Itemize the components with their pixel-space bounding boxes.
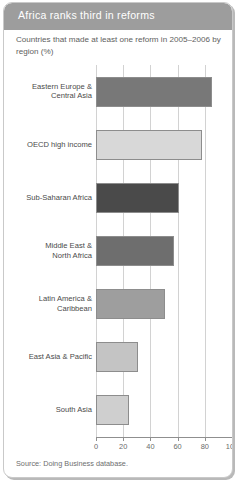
bar — [96, 130, 202, 160]
category-label: Sub-Saharan Africa — [3, 193, 92, 203]
category-label: Latin America &Caribbean — [3, 294, 92, 313]
bar — [96, 342, 138, 372]
bar — [96, 183, 179, 213]
bar — [96, 289, 165, 319]
category-label: Eastern Europe &Central Asia — [3, 82, 92, 101]
chart-figure: Africa ranks third in reforms Countries … — [0, 0, 239, 486]
x-axis-line — [96, 437, 232, 438]
category-label: OECD high income — [3, 140, 92, 150]
gridline-80 — [205, 65, 206, 437]
x-tick — [178, 438, 179, 441]
category-label: Middle East &North Africa — [3, 241, 92, 260]
x-tick — [205, 438, 206, 441]
chart-card: Africa ranks third in reforms Countries … — [3, 2, 233, 478]
x-tick-label: 60 — [166, 442, 190, 451]
x-tick — [123, 438, 124, 441]
category-label: East Asia & Pacific — [3, 352, 92, 362]
gridline-60 — [178, 65, 179, 437]
gridline-100 — [232, 65, 233, 437]
x-tick-label: 0 — [84, 442, 108, 451]
x-tick-label: 100 — [220, 442, 233, 451]
x-tick — [232, 438, 233, 441]
x-tick — [150, 438, 151, 441]
x-tick — [96, 438, 97, 441]
category-label: South Asia — [3, 405, 92, 415]
bar — [96, 77, 212, 107]
plot-area: Eastern Europe &Central AsiaOECD high in… — [4, 3, 233, 478]
x-tick-label: 40 — [138, 442, 162, 451]
bar — [96, 236, 174, 266]
x-tick-label: 80 — [193, 442, 217, 451]
x-tick-label: 20 — [111, 442, 135, 451]
bar — [96, 395, 129, 425]
source-note: Source: Doing Business database. — [16, 459, 128, 468]
